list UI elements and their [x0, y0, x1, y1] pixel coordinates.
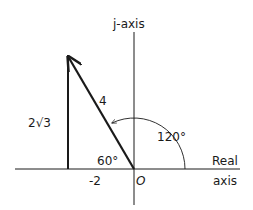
origin-label: O — [136, 174, 145, 188]
real-axis-label: Real — [212, 154, 238, 168]
angle-120-label: 120° — [157, 130, 186, 144]
phasor-vector — [69, 58, 134, 169]
magnitude-label: 4 — [99, 94, 107, 108]
imag-part-label: 2√3 — [28, 116, 51, 130]
phasor-diagram: j-axis 4 2√3 120° 60° -2 O Real axis — [0, 0, 253, 210]
angle-60-label: 60° — [97, 154, 118, 168]
real-tick-label: -2 — [89, 174, 101, 188]
real-axis-label-2: axis — [213, 174, 237, 188]
j-axis-label: j-axis — [112, 17, 145, 31]
